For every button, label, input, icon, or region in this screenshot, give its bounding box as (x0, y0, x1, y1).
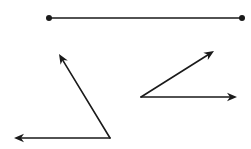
segment-endpoint-start-icon (46, 15, 52, 21)
angle-1 (14, 54, 110, 142)
arrowhead-icon (59, 54, 68, 65)
line-segment (46, 15, 245, 21)
arrowhead-icon (203, 51, 214, 60)
segment-endpoint-end-icon (239, 15, 245, 21)
angle-2-ray-upper-right (141, 54, 209, 97)
angle-2 (141, 51, 237, 101)
geometry-diagram (0, 0, 251, 149)
angle-1-ray-upper-left (62, 59, 110, 138)
